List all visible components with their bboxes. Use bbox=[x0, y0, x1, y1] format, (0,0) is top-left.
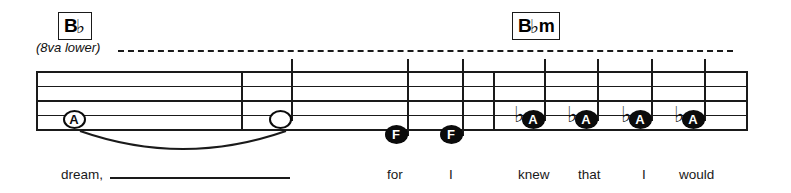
notehead-ab: A bbox=[682, 110, 705, 129]
note-stem bbox=[651, 59, 653, 121]
tie-slur bbox=[0, 0, 791, 193]
note-stem bbox=[291, 59, 293, 121]
ottava-dashed-line bbox=[118, 50, 733, 52]
ottava-label: (8va lower) bbox=[36, 40, 100, 55]
staff-line bbox=[36, 100, 748, 102]
lyric-knew: knew bbox=[518, 167, 550, 182]
lyric-i-2: I bbox=[642, 167, 646, 182]
flat-icon: ♭ bbox=[530, 16, 539, 37]
chord-quality: m bbox=[539, 16, 555, 36]
notehead-ab: A bbox=[575, 110, 598, 129]
lyric-for: for bbox=[387, 167, 403, 182]
notehead-f: F bbox=[440, 125, 463, 144]
melisma-extension-line bbox=[110, 177, 290, 179]
sheet-music-excerpt: B♭B♭m (8va lower) AFF♭A♭A♭A♭A dream,forI… bbox=[0, 0, 791, 193]
chord-bb[interactable]: B♭ bbox=[58, 12, 92, 40]
chord-bbm[interactable]: B♭m bbox=[512, 12, 560, 40]
lyric-i-1: I bbox=[449, 167, 453, 182]
notehead-ab: A bbox=[629, 110, 652, 129]
barline bbox=[493, 71, 495, 131]
lyric-dream: dream, bbox=[61, 167, 103, 182]
notehead-f: F bbox=[385, 125, 408, 144]
notehead-a: A bbox=[63, 110, 86, 129]
staff-line bbox=[36, 71, 748, 73]
notehead-a bbox=[269, 110, 292, 129]
note-stem bbox=[544, 59, 546, 121]
barline bbox=[241, 71, 243, 131]
note-stem bbox=[597, 59, 599, 121]
note-stem bbox=[462, 59, 464, 136]
staff-right-edge bbox=[746, 71, 748, 131]
staff-left-edge bbox=[36, 71, 38, 131]
notehead-ab: A bbox=[522, 110, 545, 129]
lyric-that: that bbox=[578, 167, 601, 182]
flat-icon: ♭ bbox=[76, 16, 85, 37]
lyric-would: would bbox=[679, 167, 714, 182]
staff-line bbox=[36, 86, 748, 88]
note-stem bbox=[407, 59, 409, 136]
note-stem bbox=[704, 59, 706, 121]
